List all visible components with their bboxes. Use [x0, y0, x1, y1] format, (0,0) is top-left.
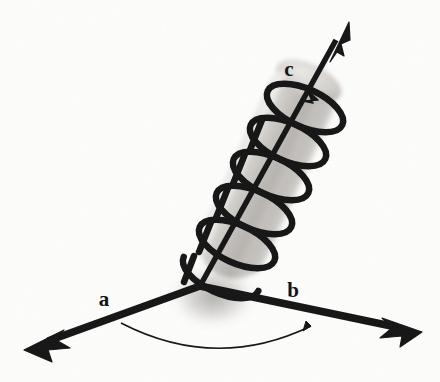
vector-diagram: a b c [0, 0, 440, 382]
figure-canvas: a b c [0, 0, 440, 382]
scan-grain-overlay [0, 0, 440, 382]
